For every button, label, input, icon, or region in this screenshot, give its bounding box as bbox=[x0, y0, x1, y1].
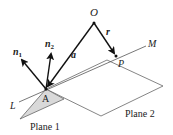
plane-intersection-diagram: O P A L M a r n1 n2 Plane 1 Plane 2 bbox=[0, 0, 173, 135]
label-a: A bbox=[42, 93, 50, 104]
label-p: P bbox=[117, 58, 124, 69]
label-vector-a: a bbox=[71, 49, 76, 60]
point-a bbox=[44, 87, 47, 90]
vector-n1 bbox=[22, 60, 46, 89]
label-l: L bbox=[9, 100, 16, 111]
label-vector-r: r bbox=[106, 26, 110, 37]
point-o bbox=[93, 22, 96, 25]
label-n1: n1 bbox=[13, 46, 23, 59]
label-n2: n2 bbox=[45, 38, 55, 51]
label-o: O bbox=[90, 6, 98, 18]
label-plane-2: Plane 2 bbox=[125, 108, 155, 119]
label-plane-1: Plane 1 bbox=[30, 121, 60, 132]
label-m: M bbox=[147, 38, 157, 49]
vector-r bbox=[94, 23, 114, 53]
